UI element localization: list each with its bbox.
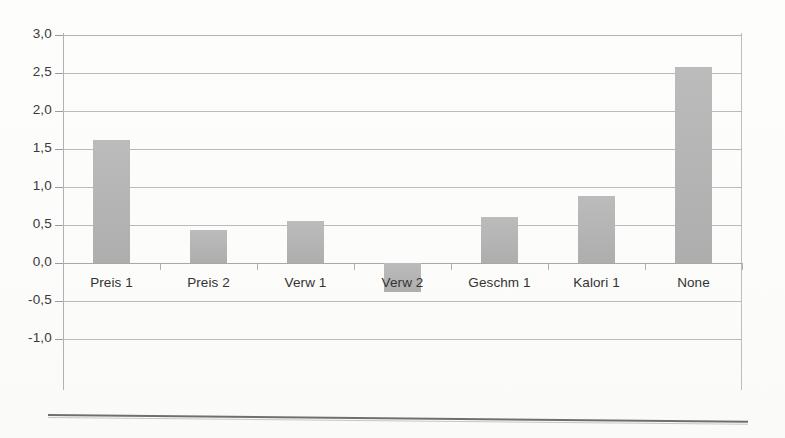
x-axis-tick (160, 263, 161, 270)
y-axis-tick (55, 339, 63, 340)
gridline (63, 149, 742, 150)
y-axis-tick (55, 263, 63, 264)
y-axis-tick-label: 0,5 (33, 216, 52, 231)
y-axis-tick-label: -0,5 (28, 292, 52, 307)
y-axis-labels: 3,02,52,01,51,00,50,0-0,5-1,0 (0, 0, 52, 438)
y-axis-tick (55, 301, 63, 302)
y-axis-tick-label: 2,0 (33, 102, 52, 117)
y-axis-tick-label: 0,0 (33, 254, 52, 269)
gridline (63, 301, 742, 302)
y-axis-tick (55, 187, 63, 188)
plot-area (63, 35, 742, 388)
x-axis-category-label: Geschm 1 (451, 275, 548, 290)
bar-chart: 3,02,52,01,51,00,50,0-0,5-1,0 Preis 1Pre… (0, 0, 785, 438)
y-axis-tick-label: -1,0 (28, 330, 52, 345)
y-axis-tick-label: 3,0 (33, 26, 52, 41)
x-axis-category-label: Verw 2 (354, 275, 451, 290)
x-axis-category-label: Verw 1 (257, 275, 354, 290)
x-axis-tick (354, 263, 355, 270)
y-axis-tick (55, 111, 63, 112)
y-axis-tick (55, 73, 63, 74)
y-axis-tick (55, 35, 63, 36)
gridline (63, 111, 742, 112)
bar (578, 196, 615, 263)
x-axis-tick (645, 263, 646, 270)
x-axis-tick (63, 263, 64, 270)
bar (287, 221, 324, 263)
bar (675, 67, 712, 263)
x-axis-category-label: Preis 1 (63, 275, 160, 290)
bar (481, 217, 518, 263)
y-axis-tick-label: 1,0 (33, 178, 52, 193)
x-axis-category-label: Kalori 1 (548, 275, 645, 290)
y-axis-tick-label: 2,5 (33, 64, 52, 79)
gridline (63, 187, 742, 188)
gridline (63, 339, 742, 340)
gridline (63, 35, 742, 36)
y-axis-tick-label: 1,5 (33, 140, 52, 155)
gridline (63, 225, 742, 226)
x-axis-tick (451, 263, 452, 270)
gridline (63, 73, 742, 74)
x-axis-tick (257, 263, 258, 270)
x-axis-category-label: Preis 2 (160, 275, 257, 290)
bar (93, 140, 130, 263)
x-axis-tick (742, 263, 743, 270)
x-axis-category-label: None (645, 275, 742, 290)
y-axis-tick (55, 225, 63, 226)
bar (190, 230, 227, 263)
y-axis-tick (55, 149, 63, 150)
x-axis-tick (548, 263, 549, 270)
